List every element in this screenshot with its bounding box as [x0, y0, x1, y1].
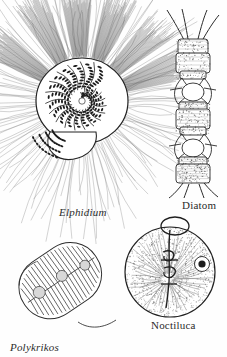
nucleus — [195, 257, 210, 272]
figure-polykrikos — [4, 226, 126, 342]
linking-spines-2 — [169, 134, 217, 159]
figure-label-noctiluca: Noctiluca — [151, 319, 196, 331]
figure-label-diatom: Diatom — [182, 199, 216, 211]
figure-diatom — [158, 6, 227, 198]
illustration-plate: Elphidium — [0, 0, 227, 357]
linking-spines-1 — [170, 78, 216, 104]
basal-spines — [169, 183, 218, 198]
figure-noctiluca — [120, 216, 224, 320]
diatom-cell-3 — [176, 157, 210, 184]
trailing-flagellum — [78, 320, 116, 327]
diatom-cell-1 — [176, 39, 211, 79]
foraminiferan-test — [32, 58, 128, 159]
diatom-cell-2 — [176, 102, 211, 136]
figure-elphidium — [2, 4, 167, 204]
figure-label-polykrikos: Polykrikos — [10, 341, 59, 353]
figure-label-elphidium: Elphidium — [59, 206, 107, 218]
apical-spines — [167, 9, 219, 41]
